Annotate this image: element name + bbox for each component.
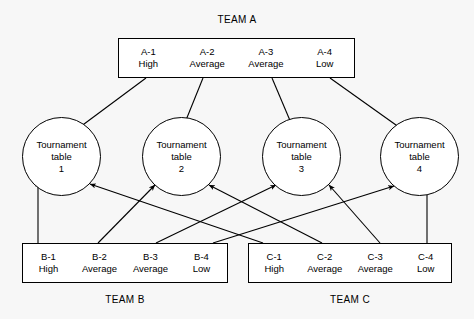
table-2-number: 2: [179, 163, 184, 175]
tournament-table-2-node: Tournament table 2: [142, 117, 221, 196]
player-code-a1: A-1: [119, 46, 178, 58]
tournament-table-4-node: Tournament table 4: [380, 117, 459, 196]
diagram-canvas: TEAM A A-1 High A-2 Average A-3 Average …: [0, 0, 474, 319]
connector-b2-table2: [98, 185, 155, 243]
team-a-title: TEAM A: [0, 14, 474, 25]
player-cell-c4: C-4 Low: [401, 251, 452, 275]
table-1-line2: table: [51, 151, 72, 163]
player-cell-b2: B-2 Average: [74, 251, 125, 275]
player-cell-a1: A-1 High: [119, 46, 178, 70]
table-4-number: 4: [417, 163, 422, 175]
player-code-c4: C-4: [401, 251, 452, 263]
table-1-line1: Tournament: [36, 139, 86, 151]
player-rank-c1: High: [249, 263, 300, 275]
player-code-b3: B-3: [125, 251, 176, 263]
player-code-c3: C-3: [350, 251, 401, 263]
player-rank-b2: Average: [74, 263, 125, 275]
player-cell-a3: A-3 Average: [237, 46, 296, 70]
player-rank-a4: Low: [295, 58, 354, 70]
table-2-line2: table: [171, 151, 192, 163]
table-4-line2: table: [409, 151, 430, 163]
player-rank-a3: Average: [237, 58, 296, 70]
table-1-number: 1: [59, 163, 64, 175]
player-code-a3: A-3: [237, 46, 296, 58]
player-code-c2: C-2: [300, 251, 351, 263]
player-rank-c2: Average: [300, 263, 351, 275]
player-rank-b4: Low: [176, 263, 227, 275]
connector-c3-table3: [329, 185, 380, 243]
team-c-box: C-1 High C-2 Average C-3 Average C-4 Low: [248, 243, 452, 283]
player-rank-b3: Average: [125, 263, 176, 275]
team-b-title: TEAM B: [22, 294, 228, 305]
table-3-line2: table: [291, 151, 312, 163]
player-code-b4: B-4: [176, 251, 227, 263]
player-rank-a2: Average: [178, 58, 237, 70]
player-rank-c3: Average: [350, 263, 401, 275]
player-cell-b1: B-1 High: [23, 251, 74, 275]
player-rank-c4: Low: [401, 263, 452, 275]
player-cell-a2: A-2 Average: [178, 46, 237, 70]
player-cell-a4: A-4 Low: [295, 46, 354, 70]
team-a-box: A-1 High A-2 Average A-3 Average A-4 Low: [118, 38, 355, 78]
player-cell-c1: C-1 High: [249, 251, 300, 275]
table-3-line1: Tournament: [276, 139, 326, 151]
player-code-b2: B-2: [74, 251, 125, 263]
team-b-box: B-1 High B-2 Average B-3 Average B-4 Low: [22, 243, 228, 283]
team-c-title: TEAM C: [248, 294, 452, 305]
tournament-table-1-node: Tournament table 1: [22, 117, 101, 196]
tournament-table-3-node: Tournament table 3: [262, 117, 341, 196]
player-cell-b4: B-4 Low: [176, 251, 227, 275]
player-cell-c3: C-3 Average: [350, 251, 401, 275]
player-rank-b1: High: [23, 263, 74, 275]
table-3-number: 3: [299, 163, 304, 175]
player-code-a4: A-4: [295, 46, 354, 58]
player-code-b1: B-1: [23, 251, 74, 263]
table-4-line1: Tournament: [394, 139, 444, 151]
player-code-c1: C-1: [249, 251, 300, 263]
player-cell-b3: B-3 Average: [125, 251, 176, 275]
player-rank-a1: High: [119, 58, 178, 70]
connector-a4-table4: [330, 78, 403, 130]
player-cell-c2: C-2 Average: [300, 251, 351, 275]
player-code-a2: A-2: [178, 46, 237, 58]
table-2-line1: Tournament: [156, 139, 206, 151]
connector-a1-table1: [76, 78, 146, 130]
